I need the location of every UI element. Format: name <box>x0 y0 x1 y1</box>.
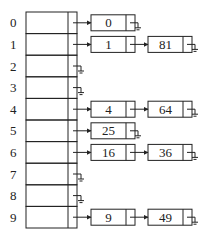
null-ground-icon <box>73 196 84 203</box>
node-value: 25 <box>102 123 115 138</box>
chain-node: 16 <box>91 144 148 160</box>
bucket-row: 9 <box>10 206 91 228</box>
bucket-row: 1 <box>10 34 91 56</box>
hash-table-diagram: 0123456789 0181464251636949 <box>0 0 199 237</box>
bucket-row: 8 <box>10 185 84 207</box>
bucket-index-label: 8 <box>10 188 17 203</box>
bucket-row: 4 <box>10 98 91 120</box>
node-value: 81 <box>159 37 172 52</box>
node-value: 49 <box>159 210 172 225</box>
null-ground-icon <box>73 174 84 181</box>
chains: 0181464251636949 <box>91 15 198 225</box>
chain-node: 9 <box>91 209 148 225</box>
chain-node: 64 <box>148 101 198 117</box>
node-value: 4 <box>105 102 112 117</box>
bucket-row: 5 <box>10 120 91 142</box>
node-value: 36 <box>159 145 173 160</box>
bucket-index-label: 2 <box>10 59 17 74</box>
node-value: 16 <box>102 145 116 160</box>
bucket-row: 7 <box>10 163 84 185</box>
bucket-row: 3 <box>10 77 84 99</box>
bucket-array: 0123456789 <box>10 12 91 228</box>
bucket-row: 2 <box>10 55 84 77</box>
bucket-index-label: 7 <box>10 167 17 182</box>
chain-node: 81 <box>148 36 198 52</box>
bucket-index-label: 5 <box>10 123 17 138</box>
chain-node: 36 <box>148 144 198 160</box>
node-value: 9 <box>105 210 112 225</box>
chain-node: 0 <box>91 15 141 31</box>
null-ground-icon <box>73 88 84 95</box>
bucket-index-label: 6 <box>10 145 17 160</box>
bucket-index-label: 3 <box>10 80 17 95</box>
node-value: 1 <box>105 37 112 52</box>
chain-node: 1 <box>91 36 148 52</box>
bucket-index-label: 1 <box>10 37 17 52</box>
chain-node: 4 <box>91 101 148 117</box>
hash-table-svg: 0123456789 0181464251636949 <box>0 0 199 237</box>
bucket-index-label: 4 <box>10 102 17 117</box>
chain-node: 25 <box>91 123 141 139</box>
null-ground-icon <box>73 66 84 73</box>
node-value: 64 <box>159 102 173 117</box>
bucket-row: 6 <box>10 142 91 164</box>
node-value: 0 <box>105 15 112 30</box>
bucket-index-label: 9 <box>10 210 17 225</box>
bucket-index-label: 0 <box>10 15 17 30</box>
chain-node: 49 <box>148 209 198 225</box>
bucket-row: 0 <box>10 12 91 34</box>
